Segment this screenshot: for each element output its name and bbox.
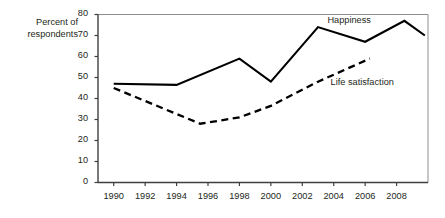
plot-area bbox=[0, 0, 445, 218]
series-line-life-satisfaction bbox=[114, 59, 370, 124]
axes-group bbox=[95, 15, 429, 187]
chart-container: Percent of respondents 01020304050607080… bbox=[0, 0, 445, 218]
series-group bbox=[114, 21, 425, 124]
series-line-happiness bbox=[114, 21, 425, 85]
